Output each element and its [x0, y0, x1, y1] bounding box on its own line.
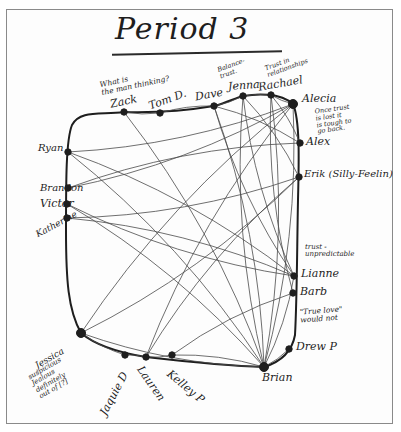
- annotation-liane: trust - unpredictable: [305, 244, 354, 259]
- node-alex: [297, 140, 303, 146]
- label-barb: Barb: [300, 286, 327, 297]
- node-liane: [291, 273, 297, 279]
- edge-erik-lauren: [146, 177, 299, 357]
- node-barb: [290, 290, 296, 296]
- label-alex: Alex: [306, 136, 330, 147]
- edge-liane-brian: [264, 276, 294, 367]
- group-boundary: [66, 94, 299, 367]
- label-erik: Erik (Silly-Feelin): [304, 169, 393, 179]
- edge-alecia-lauren: [146, 104, 293, 357]
- node-jenna: [240, 93, 246, 99]
- edge-group: [67, 94, 300, 367]
- node-alecia: [289, 100, 298, 109]
- edge-ryan-liane: [68, 152, 294, 276]
- edge-brandon-alecia: [68, 104, 293, 188]
- edge-jenna-brian: [240, 96, 264, 367]
- node-tom: [157, 110, 163, 116]
- annotation-alecia: Once trust is lost it is tough to go bac…: [314, 104, 353, 136]
- node-rachael: [268, 92, 274, 98]
- node-group: [64, 92, 303, 372]
- label-alecia: Alecia: [302, 93, 336, 104]
- node-ryan: [65, 149, 71, 155]
- label-jenna: Jenna: [228, 79, 260, 92]
- page-title: Period 3: [115, 14, 249, 44]
- label-brandon: Brandon: [40, 183, 83, 193]
- node-lauren: [143, 354, 149, 360]
- node-dave: [211, 103, 217, 109]
- node-jessica: [77, 329, 86, 338]
- edge-jessica-brian: [81, 333, 264, 367]
- edge-katherine-liane: [67, 218, 294, 276]
- node-erik: [296, 174, 302, 180]
- label-brian: Brian: [262, 372, 293, 383]
- edge-jenna-liane: [243, 96, 294, 276]
- label-victor: Victor: [40, 198, 74, 209]
- node-zack: [121, 109, 127, 115]
- label-drew: Drew P: [296, 341, 337, 352]
- edge-alecia-jessica: [81, 104, 293, 333]
- node-kelley: [169, 352, 175, 358]
- label-liane: Lianne: [301, 268, 339, 279]
- label-ryan: Ryan: [38, 143, 63, 153]
- annotation-barb: "True love" would not: [300, 306, 344, 325]
- node-drew: [286, 346, 292, 352]
- edge-victor-liane: [67, 204, 294, 276]
- node-jaquie: [122, 352, 128, 358]
